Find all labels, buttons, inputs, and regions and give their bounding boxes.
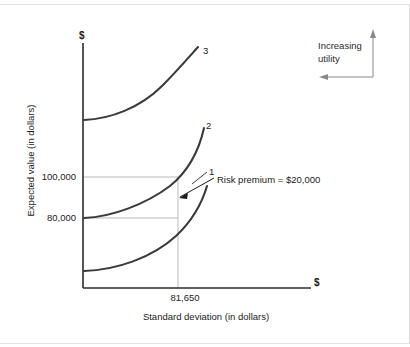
indifference-curve-3	[84, 47, 198, 120]
risk-premium-arrow	[179, 178, 214, 199]
indifference-curve-2	[84, 128, 204, 218]
x-tick-label-81650: 81,650	[150, 292, 220, 303]
curve-label-3: 3	[203, 45, 208, 56]
risk-premium-annotation: Risk premium = $20,000	[217, 174, 320, 185]
curve-label-2: 2	[206, 120, 211, 131]
curve-1-leader-line	[192, 172, 207, 184]
y-axis-title: Expected value (in dollars)	[25, 86, 36, 236]
x-axis-currency-symbol: $	[314, 277, 320, 288]
chart-figure: $ $ 100,000 80,000 81,650 Expected value…	[0, 0, 410, 347]
x-axis-title: Standard deviation (in dollars)	[86, 311, 326, 322]
y-axis-currency-symbol: $	[79, 30, 85, 41]
curve-label-1: 1	[209, 166, 214, 177]
indifference-curve-1	[84, 186, 207, 271]
increasing-utility-annotation: Increasing utility	[318, 39, 380, 65]
